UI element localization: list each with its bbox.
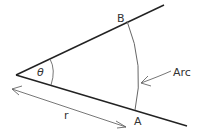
label-radius: r [64, 109, 69, 122]
arc-ab [127, 21, 139, 110]
label-arc: Arc [173, 66, 191, 79]
label-b: B [117, 12, 125, 25]
arc-diagram: B A θ Arc r [0, 0, 204, 139]
upper-ray [16, 5, 164, 75]
radius-arrow-line [12, 89, 126, 127]
label-theta: θ [37, 66, 44, 79]
arc-pointer-arrow [141, 71, 171, 83]
lower-ray [16, 75, 187, 126]
label-a: A [134, 115, 142, 128]
angle-arc [50, 59, 53, 85]
